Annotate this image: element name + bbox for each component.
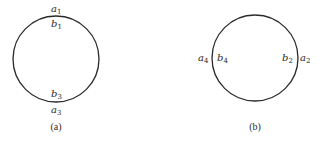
label-b1: b1 (51, 18, 62, 31)
caption-a: (a) (50, 121, 61, 133)
diagram-canvas: a1 b1 b3 a3 (a) a4 b4 b2 a2 (b) (0, 0, 319, 145)
label-b4: b4 (217, 52, 228, 65)
figure-a: a1 b1 b3 a3 (a) (13, 3, 99, 133)
label-b2: b2 (282, 52, 293, 65)
label-a3: a3 (51, 104, 61, 117)
caption-b: (b) (249, 121, 261, 133)
figure-b: a4 b4 b2 a2 (b) (198, 15, 310, 133)
label-a1: a1 (51, 3, 61, 16)
label-a2: a2 (300, 52, 310, 65)
label-a4: a4 (198, 52, 209, 65)
label-b3: b3 (51, 88, 62, 101)
